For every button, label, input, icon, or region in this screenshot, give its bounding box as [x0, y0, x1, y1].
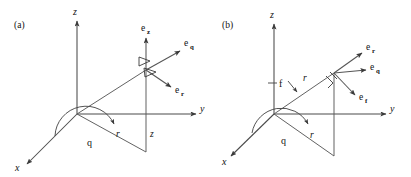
- panel-a-right-angle-markers: [139, 57, 156, 77]
- panel-b-unit-vector-e-f: e f: [334, 73, 368, 104]
- panel-b-axis-y: y: [274, 103, 395, 114]
- panel-a-radius-label: r: [116, 129, 120, 139]
- panel-a-axis-y: y: [77, 103, 205, 114]
- panel-a-label: (a): [14, 20, 25, 31]
- panel-a-theta-label: q: [87, 137, 92, 148]
- panel-a-unit-vector-e-q: e q: [146, 38, 194, 70]
- panel-a-e-r-subscript: r: [181, 90, 184, 97]
- coordinate-systems-figure: (a) z y x r: [0, 0, 411, 177]
- panel-b-axis-y-label: y: [389, 103, 395, 114]
- panel-a-axis-x-label: x: [14, 162, 20, 173]
- panel-b-e-f-base: e: [359, 92, 363, 102]
- panel-a-height-label: z: [149, 129, 154, 139]
- panel-a-height-line: z: [146, 70, 154, 152]
- panel-b-axis-x: x: [221, 114, 274, 167]
- panel-b: (b) z y x r: [221, 9, 395, 167]
- panel-a-e-z-subscript: z: [147, 28, 150, 35]
- panel-a-axis-x: x: [14, 114, 77, 173]
- panel-b-e-r-subscript: r: [372, 47, 375, 54]
- panel-a-e-q-base: e: [184, 38, 188, 48]
- panel-b-radius-lower-label: r: [310, 130, 314, 140]
- panel-b-phi-angle: f: [268, 78, 297, 92]
- panel-a-axis-z-label: z: [72, 6, 77, 17]
- panel-b-radius-upper-label: r: [303, 73, 307, 83]
- diagram-canvas: (a) z y x r: [0, 0, 411, 177]
- panel-b-e-q-subscript: q: [376, 67, 380, 74]
- panel-a-e-z-base: e: [141, 23, 145, 33]
- panel-a-e-q-subscript: q: [190, 43, 194, 50]
- panel-a-e-r-base: e: [175, 85, 179, 95]
- panel-b-e-q-base: e: [370, 62, 374, 72]
- panel-b-axis-z-label: z: [269, 9, 274, 20]
- panel-a-axis-y-label: y: [199, 103, 205, 114]
- panel-b-label: (b): [222, 20, 233, 31]
- panel-a-position-vector: [77, 70, 146, 114]
- panel-b-unit-vector-e-r: e r: [334, 42, 375, 73]
- panel-b-theta-label: q: [281, 135, 286, 146]
- panel-b-axis-z: z: [269, 9, 274, 114]
- panel-b-phi-label: f: [279, 78, 283, 89]
- panel-b-e-r-base: e: [366, 42, 370, 52]
- panel-a-axis-z: z: [72, 6, 77, 114]
- panel-b-axis-x-label: x: [221, 156, 227, 167]
- panel-b-e-f-subscript: f: [365, 97, 368, 104]
- panel-a: (a) z y x r: [14, 6, 205, 173]
